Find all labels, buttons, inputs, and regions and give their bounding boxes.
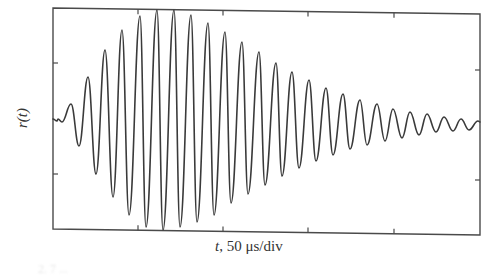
x-axis-label: t, 50 μs/div [215,238,283,255]
signal-trace-r-of-t [53,10,480,230]
figure-caption-fragment: 2. 7 ... [38,262,68,277]
y-axis-label: r(t) [14,108,31,128]
x-axis-units: , 50 μs/div [219,238,282,254]
